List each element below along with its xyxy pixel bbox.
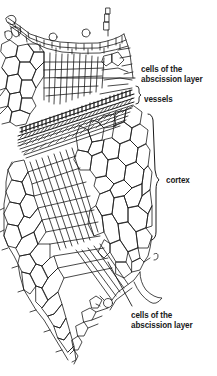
label-abscission-layer-bottom: cells of the abscission layer [131,311,193,330]
hair-round-1 [49,33,57,41]
hair-curl [154,253,158,260]
hair-round-bottom [104,299,113,308]
vessel-band [18,90,134,158]
hair-segment-3 [106,8,110,14]
left-parenchyma-upper [0,40,44,126]
label-cortex-text: cortex [166,176,190,186]
vessels-bracket [136,86,141,104]
label-abscission-top-line2: abscission layer [141,75,203,85]
label-vessels-text: vessels [144,95,173,105]
upper-right-edge [102,34,133,78]
left-parenchyma-lower [0,160,76,362]
lower-right-edge [70,236,162,364]
top-epidermis [5,8,128,54]
label-vessels: vessels [144,95,173,105]
hair-round-2 [82,29,90,37]
hair-segment-1 [104,22,109,30]
hair-segment-2 [105,14,109,22]
label-abscission-bottom-line2: abscission layer [131,321,193,331]
cortex-bracket [148,114,159,240]
radial-cells-upper [44,52,135,104]
hooked-hair [134,272,162,303]
label-cortex: cortex [166,176,190,186]
label-abscission-layer-top: cells of the abscission layer [141,65,203,84]
